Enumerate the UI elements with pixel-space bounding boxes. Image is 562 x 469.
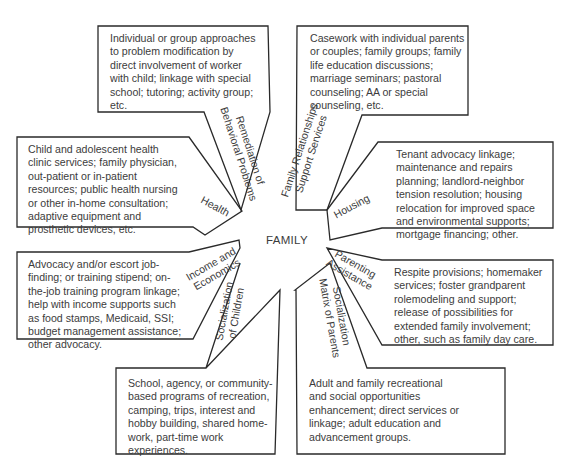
center-label-family: FAMILY bbox=[266, 234, 308, 246]
family-services-diagram: Individual or group approaches to proble… bbox=[0, 0, 562, 469]
box-text-socialization-children: School, agency, or community- based prog… bbox=[128, 377, 273, 457]
box-text-family-relationships: Casework with individual parents or coup… bbox=[310, 32, 464, 112]
box-text-housing: Tenant advocacy linkage; maintenance and… bbox=[396, 148, 535, 242]
box-text-income: Advocacy and/or escort job- finding; or … bbox=[28, 258, 181, 352]
box-text-health: Child and adolescent health clinic servi… bbox=[28, 143, 178, 237]
box-text-socialization-parents: Adult and family recreational and social… bbox=[309, 377, 459, 444]
box-text-behavioral: Individual or group approaches to proble… bbox=[110, 32, 255, 112]
box-text-parenting: Respite provisions; homemaker services; … bbox=[394, 266, 542, 346]
